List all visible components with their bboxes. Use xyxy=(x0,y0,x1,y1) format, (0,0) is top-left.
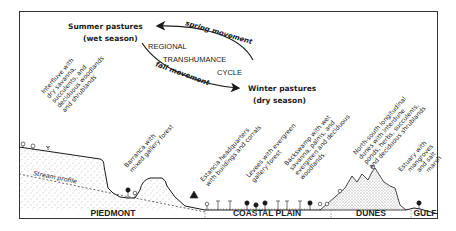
backswamp-annotation: Backswamp with wet savanna, palms, and e… xyxy=(283,103,357,180)
region-coastal-plain: COASTAL PLAIN xyxy=(233,208,301,218)
region-gulf: GULF xyxy=(413,208,436,218)
svg-text:Estancia headquarters: Estancia headquarters xyxy=(199,126,252,183)
interfluve-annotation: Interfluve with dry savanna, succulents,… xyxy=(40,40,111,113)
barranca-annotation: Barranca with mixed gallery forest xyxy=(123,118,176,174)
cycle-label-cycle: CYCLE xyxy=(217,68,242,77)
summer-season-label: (wet season) xyxy=(83,34,138,43)
region-piedmont: PIEDMONT xyxy=(91,208,137,218)
transhumance-cycle: Summer pastures (wet season) Winter past… xyxy=(68,19,317,105)
svg-text:mixed gallery forest: mixed gallery forest xyxy=(128,122,176,174)
transhumance-diagram: Summer pastures (wet season) Winter past… xyxy=(0,0,456,231)
estuary-annotation: Estuary with mangroves and salt marsh xyxy=(397,138,445,187)
fall-movement-label: fall movement xyxy=(154,60,211,87)
summer-pastures-label: Summer pastures xyxy=(68,22,143,31)
spring-movement-label: spring movement xyxy=(184,19,253,46)
cycle-label-transhumance: TRANSHUMANCE xyxy=(163,55,226,64)
winter-season-label: (dry season) xyxy=(253,96,306,105)
region-dunes: DUNES xyxy=(356,208,386,218)
winter-pastures-label: Winter pastures xyxy=(248,84,317,93)
cycle-label-regional: REGIONAL xyxy=(148,42,187,51)
